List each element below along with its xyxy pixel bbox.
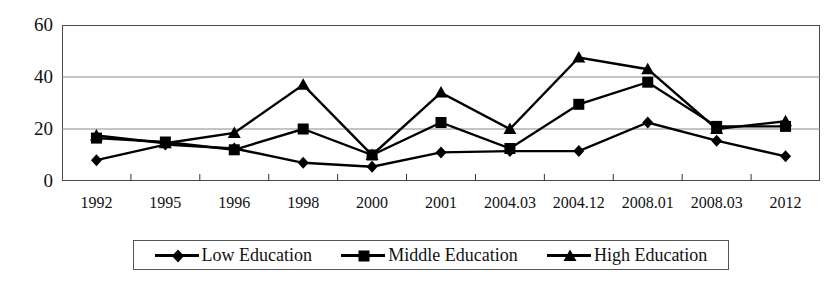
chart-legend: Low EducationMiddle EducationHigh Educat… [133, 240, 729, 270]
data-point-marker [298, 124, 309, 135]
legend-item-high-education[interactable]: High Education [547, 246, 707, 264]
legend-key [341, 247, 385, 263]
legend-item-label: Middle Education [388, 246, 517, 264]
data-point-marker [436, 117, 447, 128]
data-point-marker [642, 77, 653, 88]
data-point-marker [228, 126, 241, 137]
legend-item-label: Low Education [202, 246, 312, 264]
y-axis-tick-label: 20 [34, 119, 53, 138]
data-point-marker [573, 145, 584, 157]
data-point-marker [572, 51, 585, 63]
x-axis-tick-label: 2012 [746, 195, 826, 211]
data-point-marker [504, 143, 515, 154]
data-point-marker [367, 161, 378, 173]
legend-marker-square-icon [356, 248, 372, 264]
legend-item-label: High Education [594, 246, 707, 264]
y-axis-tick-label: 40 [34, 67, 53, 86]
data-point-marker [780, 150, 791, 162]
y-axis-tick-label: 0 [44, 171, 54, 190]
legend-key [547, 247, 591, 263]
data-point-marker [436, 146, 447, 158]
plot-series-svg [62, 25, 820, 181]
series-line [96, 58, 785, 156]
data-point-marker [711, 135, 722, 147]
legend-marker-triangle-icon [562, 248, 578, 264]
legend-marker-diamond-icon [170, 248, 186, 264]
data-point-marker [297, 78, 310, 90]
data-point-marker [573, 99, 584, 110]
data-point-marker [642, 117, 653, 129]
data-point-marker [229, 144, 240, 155]
line-chart: 0204060 1992199519961998200020012004.032… [0, 0, 840, 281]
data-point-marker [91, 154, 102, 166]
data-point-marker [298, 157, 309, 169]
series-high-education [90, 51, 792, 160]
data-point-marker [779, 115, 792, 127]
legend-item-low-education[interactable]: Low Education [155, 246, 312, 264]
legend-item-middle-education[interactable]: Middle Education [341, 246, 517, 264]
data-point-marker [435, 86, 448, 98]
y-axis-tick-label: 60 [34, 15, 53, 34]
legend-key [155, 247, 199, 263]
